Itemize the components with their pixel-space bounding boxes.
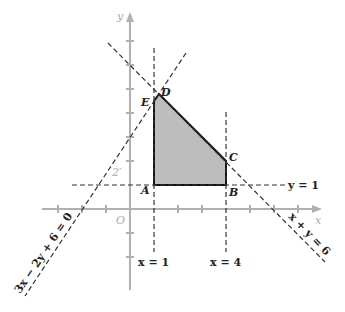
vertex-a-label: A	[140, 184, 150, 197]
y-axis-arrow-icon	[126, 12, 134, 22]
line-x-plus-y-eq-6	[108, 43, 325, 262]
label-x-plus-y-eq-6: x + y = 6	[286, 210, 333, 258]
x-axis-arrow-icon	[312, 205, 322, 213]
origin-label: O	[116, 214, 125, 227]
vertex-d-label: D	[160, 86, 171, 99]
x-axis-label: x	[315, 214, 322, 227]
label-y-eq-1: y = 1	[287, 179, 319, 192]
faint-label: 2′	[111, 166, 122, 179]
x-axis	[42, 205, 318, 213]
vertex-e-label: E	[140, 96, 150, 109]
y-axis-label: y	[116, 10, 124, 23]
y-axis	[126, 20, 134, 290]
label-x-eq-4: x = 4	[210, 256, 241, 269]
diagram-canvas: y x O 2′ A B C D E x = 1 x = 4 y = 1 x +…	[0, 0, 345, 312]
label-3x-minus-2y-plus-6: 3x − 2y + 6 = 0	[12, 210, 76, 296]
label-x-eq-1: x = 1	[138, 256, 169, 269]
feasible-region	[154, 94, 226, 185]
vertex-b-label: B	[228, 186, 238, 199]
vertex-c-label: C	[229, 151, 238, 164]
